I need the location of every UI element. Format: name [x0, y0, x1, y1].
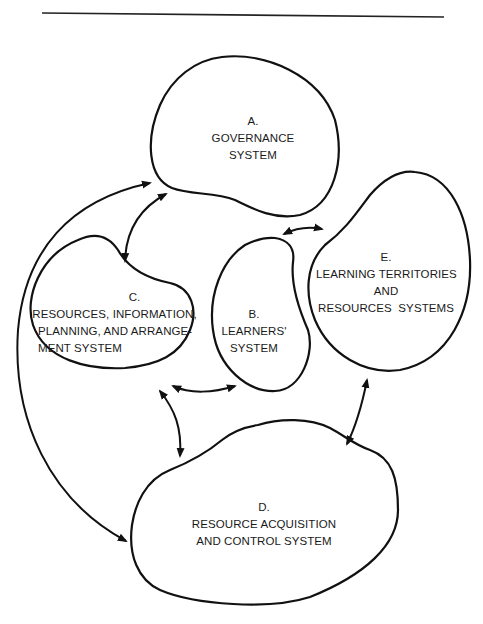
- node-c-label: C. RESOURCES, INFORMATION, PLANNING, AND…: [32, 289, 197, 357]
- edge-c-d: [160, 391, 180, 456]
- node-c-line-3: MENT SYSTEM: [32, 340, 197, 357]
- node-b-line-1: LEARNERS': [216, 323, 292, 340]
- node-c-line-1: RESOURCES, INFORMATION,: [32, 306, 197, 323]
- edge-a-e: [284, 228, 322, 234]
- node-d-label: D. RESOURCE ACQUISITION AND CONTROL SYST…: [190, 499, 338, 550]
- node-b-letter: B.: [216, 306, 292, 323]
- node-b-label: B. LEARNERS' SYSTEM: [216, 306, 292, 357]
- edge-a-c: [125, 194, 166, 261]
- edge-c-b: [173, 386, 235, 392]
- node-e-label: E. LEARNING TERRITORIES AND RESOURCES SY…: [316, 249, 456, 317]
- node-a-label: A. GOVERNANCE SYSTEM: [200, 113, 306, 164]
- node-d-line-1: RESOURCE ACQUISITION: [190, 516, 338, 533]
- node-c-letter: C.: [32, 289, 197, 306]
- node-c-line-2: PLANNING, AND ARRANGE-: [32, 323, 197, 340]
- node-e-line-1: LEARNING TERRITORIES: [316, 266, 456, 283]
- node-a-letter: A.: [200, 113, 306, 130]
- top-rule: [42, 13, 444, 17]
- node-b-line-2: SYSTEM: [216, 340, 292, 357]
- node-d-letter: D.: [190, 499, 338, 516]
- node-a-line-2: SYSTEM: [200, 147, 306, 164]
- node-e-line-3: RESOURCES SYSTEMS: [316, 300, 456, 317]
- node-e-letter: E.: [316, 249, 456, 266]
- node-a-line-1: GOVERNANCE: [200, 130, 306, 147]
- edge-e-d: [347, 380, 367, 444]
- node-d-line-2: AND CONTROL SYSTEM: [190, 533, 338, 550]
- node-e-line-2: AND: [316, 283, 456, 300]
